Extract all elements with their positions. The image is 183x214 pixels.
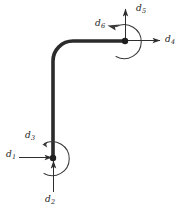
lower-node-dot xyxy=(50,155,56,161)
d6-arrowhead xyxy=(108,25,120,31)
lower-node-group xyxy=(19,142,69,192)
frame-member xyxy=(53,41,125,158)
d3-arrowhead xyxy=(42,142,47,148)
diagram-canvas xyxy=(0,0,183,214)
label-d2: d2 xyxy=(45,195,55,204)
label-d3: d3 xyxy=(25,131,35,140)
label-d1: d1 xyxy=(6,150,16,159)
member-path xyxy=(53,41,125,158)
label-d4: d4 xyxy=(165,35,175,44)
frame-dof-diagram: d1 d2 d3 d4 d5 d6 xyxy=(0,0,183,214)
label-d5: d5 xyxy=(136,4,146,13)
upper-node-group xyxy=(108,9,161,59)
upper-node-dot xyxy=(122,38,128,44)
label-d6: d6 xyxy=(95,19,105,28)
d3-moment-arc xyxy=(44,142,69,176)
